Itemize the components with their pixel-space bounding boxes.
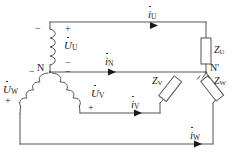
impedance-label-zu-subscript: U xyxy=(220,48,225,56)
current-label-iu: iU xyxy=(148,9,156,21)
polarity-v-plus: + xyxy=(88,103,94,113)
current-label-in-symbol: i xyxy=(105,56,108,67)
current-label-iu-symbol: i xyxy=(148,9,151,20)
node-label-nprime: N' xyxy=(210,63,219,73)
source-label-w-symbol: U xyxy=(3,84,11,95)
wire-zv-lower-lead xyxy=(160,100,163,103)
current-label-iv-symbol: i xyxy=(131,99,134,110)
source-label-u: UU xyxy=(64,40,77,52)
polarity-w-plus: + xyxy=(5,96,11,106)
impedance-label-zw: ZW xyxy=(214,76,226,87)
source-winding-v xyxy=(52,73,80,106)
source-label-w-subscript: W xyxy=(11,87,18,96)
source-label-v: UV xyxy=(91,88,104,100)
current-label-iw-subscript: W xyxy=(193,133,200,142)
source-label-v-symbol: U xyxy=(91,88,99,99)
polarity-u-plus-right: + xyxy=(65,24,71,34)
current-label-iv: iV xyxy=(131,99,139,111)
current-label-iv-subscript: V xyxy=(134,102,139,111)
polarity-w-minus: − xyxy=(29,67,35,77)
source-label-u-symbol: U xyxy=(64,40,72,51)
impedance-label-zv-subscript: V xyxy=(158,79,163,87)
wire-v-winding-end xyxy=(80,106,81,113)
current-label-iw-symbol: i xyxy=(190,130,193,141)
impedance-label-zv: ZV xyxy=(152,76,163,87)
arrow-iu xyxy=(150,22,158,29)
impedance-zu-body xyxy=(201,38,211,64)
wire-zv-upper-lead xyxy=(198,76,201,79)
polarity-u-minus-left: − xyxy=(35,24,41,34)
impedance-label-zu: ZU xyxy=(214,45,225,56)
node-label-n: N xyxy=(37,63,44,73)
current-label-iw: iW xyxy=(190,130,200,142)
source-winding-w xyxy=(20,73,48,106)
current-label-in: iN xyxy=(105,56,113,68)
wire-w-winding-end xyxy=(20,106,21,114)
source-winding-u xyxy=(50,29,55,65)
circuit-diagram-canvas: UU UV UW iU iN iV iW ZU ZV ZW N N' − + −… xyxy=(0,0,237,155)
wire-zw-lower-lead xyxy=(213,100,216,103)
polarity-n-minus-lower: − xyxy=(65,67,71,77)
arrow-in xyxy=(108,69,116,76)
current-label-iu-subscript: U xyxy=(151,12,156,21)
junction-dot-nprime xyxy=(205,71,207,73)
source-label-v-subscript: V xyxy=(99,91,104,100)
source-label-u-subscript: U xyxy=(72,43,77,52)
junction-dot-n xyxy=(49,71,51,73)
current-label-in-subscript: N xyxy=(108,59,113,68)
impedance-label-zw-subscript: W xyxy=(220,79,227,87)
